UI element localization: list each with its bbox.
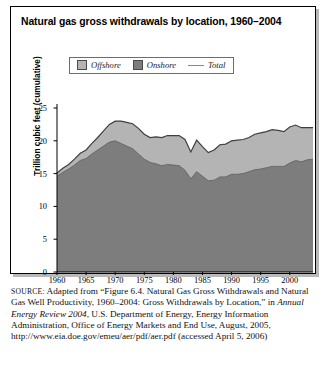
x-tick-label: 2000 xyxy=(281,276,298,285)
figure-box: Natural gas gross withdrawals by locatio… xyxy=(10,6,316,274)
area-chart-svg xyxy=(11,7,317,275)
source-text-part1: Adapted from “Figure 6.4. Natural Gas Gr… xyxy=(11,286,309,307)
x-tick-label: 1965 xyxy=(78,276,95,285)
x-tick-label: 1960 xyxy=(49,276,66,285)
source-note: SOURCE: Adapted from “Figure 6.4. Natura… xyxy=(11,286,316,342)
figure-page: Natural gas gross withdrawals by locatio… xyxy=(0,0,328,365)
source-label: SOURCE: xyxy=(11,287,45,296)
x-tick-label: 1990 xyxy=(223,276,240,285)
x-tick-label: 1980 xyxy=(165,276,182,285)
x-tick-label: 1970 xyxy=(107,276,124,285)
x-tick-label: 1985 xyxy=(194,276,211,285)
chart-plot-area: Trillion cubic feet (cumulative) 0510152… xyxy=(11,7,317,275)
x-tick-label: 1995 xyxy=(252,276,269,285)
x-tick-label: 1975 xyxy=(136,276,153,285)
